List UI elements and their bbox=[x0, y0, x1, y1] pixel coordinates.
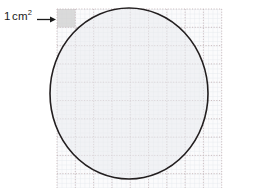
unit-label-number: 1 bbox=[4, 10, 11, 22]
arrow-right-icon bbox=[37, 16, 56, 22]
annotation-layer bbox=[0, 0, 259, 188]
figure-container: 1cm2 bbox=[0, 0, 259, 188]
unit-label-unit: cm bbox=[12, 10, 28, 22]
unit-label-exponent: 2 bbox=[28, 8, 32, 17]
unit-area-label: 1cm2 bbox=[4, 9, 32, 22]
